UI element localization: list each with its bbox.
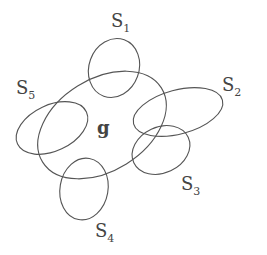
set-diagram: g S1 S2 S3 S4 S5: [0, 0, 267, 255]
label-s5: S5: [16, 77, 35, 102]
ellipse-s2: [128, 79, 228, 145]
label-s4: S4: [95, 220, 114, 245]
ellipse-s4: [55, 154, 113, 223]
ellipse-s1: [80, 31, 148, 104]
label-g: g: [97, 117, 110, 138]
label-s2: S2: [222, 74, 241, 99]
label-s1: S1: [111, 10, 130, 35]
ellipse-s5: [8, 91, 96, 165]
label-s3: S3: [181, 173, 200, 198]
